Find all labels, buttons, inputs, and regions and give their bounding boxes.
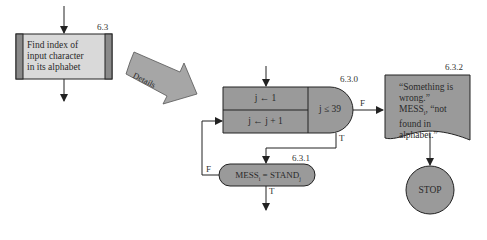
compare-box-6-3-1 [202, 121, 315, 210]
compare-id-label: 6.3.1 [292, 153, 310, 163]
process-line-3: in its alphabet [27, 62, 103, 73]
loop-init: j ← 1 [223, 93, 308, 104]
output-line-3: MESSi, “not [399, 104, 469, 119]
arrow-false-loop-back [202, 121, 222, 175]
loop-true-label: T [339, 133, 345, 143]
loop-false-label: F [360, 98, 365, 108]
output-line-5: alphabet.” [399, 130, 469, 141]
output-line-1: “Something is [399, 82, 469, 93]
output-line-4: found in [399, 119, 469, 130]
loop-id-label: 6.3.0 [340, 74, 358, 84]
compare-op: = [263, 170, 268, 180]
compare-true-label: T [269, 186, 275, 196]
stop-label: STOP [406, 185, 454, 196]
loop-increment: j ← j + 1 [223, 116, 308, 127]
output-id-label: 6.3.2 [445, 62, 463, 72]
left-stripe [16, 34, 23, 79]
loop-box-6-3-0 [223, 66, 383, 163]
compare-right: STAND [270, 170, 299, 180]
output-mess-tail: , “not [426, 104, 447, 114]
output-text: “Something is wrong.” MESSi, “not found … [399, 82, 469, 141]
compare-left-sub: i [259, 176, 261, 182]
compare-false-label: F [206, 164, 211, 174]
process-line-2: input character [27, 51, 103, 62]
loop-condition: j ≤ 39 [310, 104, 350, 115]
output-line-2: wrong.” [399, 93, 469, 104]
compare-left: MESS [235, 170, 259, 180]
compare-right-sub: j [299, 176, 301, 182]
output-mess: MESS [399, 104, 424, 114]
process-text: Find index of input character in its alp… [27, 40, 103, 73]
compare-expression: MESSi = STANDj [228, 170, 308, 185]
process-id-label: 6.3 [97, 22, 108, 32]
process-line-1: Find index of [27, 40, 103, 51]
right-stripe [105, 34, 112, 79]
